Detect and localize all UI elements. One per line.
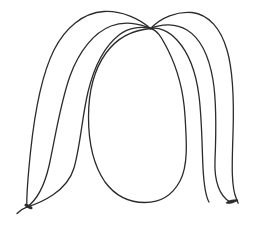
line-drawing-svg [0,0,257,227]
drawing-canvas [0,0,257,227]
